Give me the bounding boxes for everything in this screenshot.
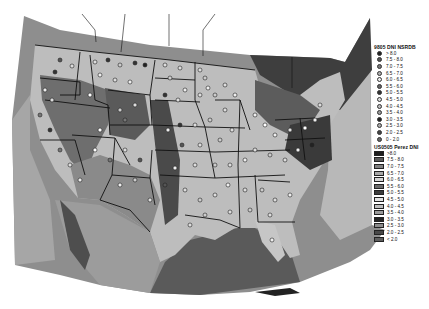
legend-point-label: 5.0 - 5.5: [386, 90, 403, 95]
legend-point-item: 4.0 - 4.5: [374, 103, 416, 110]
legend-raster-item: 4.5 - 5.0: [374, 196, 418, 203]
legend-point-item: 6.5 - 7.0: [374, 70, 416, 77]
station-dot-icon: [377, 117, 382, 122]
legend-raster-label: 2.5 - 3.0: [387, 223, 404, 228]
legend-raster-item: 4.0 - 4.5: [374, 203, 418, 210]
legend-point-label: 3.0 - 3.5: [386, 117, 403, 122]
color-swatch-icon: [374, 157, 384, 162]
legend-raster-label: 5.0 - 5.5: [387, 190, 404, 195]
legend-point-item: 3.5 - 4.0: [374, 109, 416, 116]
legend-point-item: 7.0 - 7.5: [374, 63, 416, 70]
legend-point-label: 6.5 - 7.0: [386, 71, 403, 76]
legend-point-label: 3.5 - 4.0: [386, 110, 403, 115]
color-swatch-icon: [374, 217, 384, 222]
raster-layer: [12, 16, 385, 296]
legend-raster-label: 7.0 - 7.5: [387, 164, 404, 169]
station-dot-icon: [377, 137, 382, 142]
legend-point-label: 0 - 2.0: [386, 137, 399, 142]
legend-raster-item: 2.0 - 2.5: [374, 229, 418, 236]
legend-point-label: 5.5 - 6.0: [386, 84, 403, 89]
legend-point-label: 2.5 - 3.0: [386, 123, 403, 128]
station-dot-icon: [377, 90, 382, 95]
station-dot-icon: [377, 84, 382, 89]
legend-point-item: 7.5 - 8.0: [374, 57, 416, 64]
legend-raster-label: 7.5 - 8.0: [387, 157, 404, 162]
color-swatch-icon: [374, 190, 384, 195]
legend-raster-item: 6.5 - 7.0: [374, 170, 418, 177]
legend-point-item: 6.0 - 6.5: [374, 76, 416, 83]
color-swatch-icon: [374, 184, 384, 189]
legend-raster-label: < 2.0: [387, 237, 397, 242]
color-swatch-icon: [374, 197, 384, 202]
legend-point-label: 2.0 - 2.5: [386, 130, 403, 135]
color-swatch-icon: [374, 177, 384, 182]
station-dot-icon: [377, 110, 382, 115]
legend-point-item: 2.5 - 3.0: [374, 123, 416, 130]
legend-point-label: > 8.0: [386, 51, 396, 56]
color-swatch-icon: [374, 164, 384, 169]
dni-map: [0, 0, 429, 309]
legend-raster-label: 3.0 - 3.5: [387, 217, 404, 222]
legend-raster-label: 6.5 - 7.0: [387, 171, 404, 176]
legend-raster-item: 2.5 - 3.0: [374, 223, 418, 230]
legend-raster-label: 6.0 - 6.5: [387, 177, 404, 182]
legend-raster-label: 5.5 - 6.0: [387, 184, 404, 189]
legend-raster-item: 7.0 - 7.5: [374, 163, 418, 170]
legend-point-label: 6.0 - 6.5: [386, 77, 403, 82]
legend-point-label: 4.5 - 5.0: [386, 97, 403, 102]
legend-point-item: 4.5 - 5.0: [374, 96, 416, 103]
color-swatch-icon: [374, 204, 384, 209]
legend-raster-label: 4.0 - 4.5: [387, 204, 404, 209]
legend-point-label: 4.0 - 4.5: [386, 104, 403, 109]
legend-points-title: 9805 DNI NSRDB: [374, 44, 416, 50]
legend-raster-label: 2.0 - 2.5: [387, 230, 404, 235]
legend-raster-label: 3.5 - 4.0: [387, 210, 404, 215]
legend-point-item: > 8.0: [374, 50, 416, 57]
color-swatch-icon: [374, 151, 384, 156]
legend-raster-label: >8.0: [387, 151, 396, 156]
legend-raster-item: 5.0 - 5.5: [374, 190, 418, 197]
station-dot-icon: [377, 77, 382, 82]
station-dot-icon: [377, 97, 382, 102]
color-swatch-icon: [374, 237, 384, 242]
legend-raster-item: 7.5 - 8.0: [374, 157, 418, 164]
legend-point-item: 2.0 - 2.5: [374, 129, 416, 136]
legend-point-label: 7.5 - 8.0: [386, 57, 403, 62]
legend-nsrdb-points: 9805 DNI NSRDB > 8.07.5 - 8.07.0 - 7.56.…: [374, 44, 416, 142]
color-swatch-icon: [374, 171, 384, 176]
legend-raster-item: 3.0 - 3.5: [374, 216, 418, 223]
station-dot-icon: [377, 71, 382, 76]
color-swatch-icon: [374, 230, 384, 235]
legend-point-item: 3.0 - 3.5: [374, 116, 416, 123]
station-dot-icon: [377, 57, 382, 62]
color-swatch-icon: [374, 210, 384, 215]
legend-raster-item: 6.0 - 6.5: [374, 176, 418, 183]
station-dot-icon: [377, 130, 382, 135]
legend-raster-item: 5.5 - 6.0: [374, 183, 418, 190]
legend-perez-raster: US0505 Perez DNI >8.07.5 - 8.07.0 - 7.56…: [374, 144, 418, 242]
station-dot-icon: [377, 123, 382, 128]
legend-raster-item: < 2.0: [374, 236, 418, 243]
legend-raster-label: 4.5 - 5.0: [387, 197, 404, 202]
legend-raster-item: >8.0: [374, 150, 418, 157]
station-dot-icon: [377, 64, 382, 69]
legend-point-label: 7.0 - 7.5: [386, 64, 403, 69]
legend-point-item: 5.5 - 6.0: [374, 83, 416, 90]
color-swatch-icon: [374, 223, 384, 228]
legend-raster-item: 3.5 - 4.0: [374, 209, 418, 216]
legend-point-item: 5.0 - 5.5: [374, 90, 416, 97]
legend-point-item: 0 - 2.0: [374, 136, 416, 143]
legend-raster-title: US0505 Perez DNI: [374, 144, 418, 150]
station-dot-icon: [377, 104, 382, 109]
station-dot-icon: [377, 51, 382, 56]
